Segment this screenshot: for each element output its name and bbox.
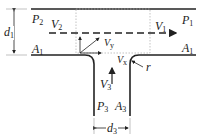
label-p2: P2	[32, 13, 43, 27]
label-v3: V3	[100, 78, 111, 92]
label-d1: d1	[4, 26, 14, 40]
tee-junction-diagram: d1 P2 A1 V2 V1 P1 A1 Vy Vx r V3 P3 A3 d3	[0, 0, 206, 138]
bottom-right-wall	[130, 55, 196, 116]
label-v1: V1	[155, 20, 166, 34]
label-v2: V2	[51, 18, 62, 32]
label-r: r	[146, 61, 151, 73]
label-vy: Vy	[104, 38, 114, 50]
r-pointer	[132, 61, 143, 67]
label-vx: Vx	[117, 55, 127, 67]
label-p1: P1	[182, 14, 193, 28]
label-p3: P3	[97, 100, 108, 114]
label-a3: A3	[115, 100, 126, 114]
label-a1-right: A1	[182, 42, 193, 56]
label-d3: d3	[106, 122, 118, 136]
bottom-left-wall	[31, 55, 94, 116]
label-a1-left: A1	[32, 43, 43, 57]
v-resultant-arrow	[80, 38, 99, 53]
diagram-graphics	[0, 0, 206, 138]
